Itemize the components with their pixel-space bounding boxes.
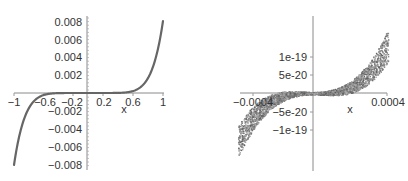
left-x-tick-label: −1 <box>8 96 21 108</box>
left-y-tick-label: −0.002 <box>48 105 82 117</box>
left-plot: −1 −0.6 −0.2 0.2 0.6 1 x 0.008 0.006 0.0… <box>8 16 166 171</box>
left-y-tick-label: −0.008 <box>48 159 82 171</box>
left-y-tick-label: −0.006 <box>48 141 82 153</box>
left-x-axis-label: x <box>121 103 127 115</box>
right-y-tick-label: −1e-19 <box>272 124 307 136</box>
figure-canvas: −1 −0.6 −0.2 0.2 0.6 1 x 0.008 0.006 0.0… <box>0 0 408 181</box>
left-y-tick-label: 0.002 <box>54 69 82 81</box>
right-y-tick-label: −5e-20 <box>272 106 307 118</box>
right-x-tick-label: −0.0004 <box>233 96 273 108</box>
left-y-tick-label: 0.008 <box>54 16 82 28</box>
right-x-tick-label: 0.0004 <box>371 96 405 108</box>
left-x-tick-label: 1 <box>160 96 166 108</box>
right-y-tick-label: 1e-19 <box>279 51 307 63</box>
left-y-tick-label: −0.004 <box>48 123 82 135</box>
right-noise-band <box>238 33 389 156</box>
left-y-tick-label: 0.004 <box>54 51 82 63</box>
left-x-tick-label: 0.6 <box>125 96 140 108</box>
right-plot: −0.0004 0.0004 x 1e-19 5e-20 −5e-20 −1e-… <box>233 16 405 171</box>
left-y-tick-label: 0.006 <box>54 34 82 46</box>
left-x-tick-label: 0.2 <box>96 96 111 108</box>
right-y-tick-label: 5e-20 <box>279 69 307 81</box>
right-x-axis-label: x <box>347 103 353 115</box>
